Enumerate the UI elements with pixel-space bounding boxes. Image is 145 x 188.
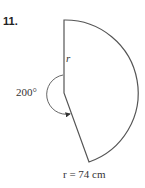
radius-label: r <box>66 52 70 64</box>
diagram: 11. r 200° r = 74 cm <box>0 0 145 188</box>
radius-caption: r = 74 cm <box>63 168 106 180</box>
angle-label: 200° <box>16 86 37 98</box>
sector-outline <box>64 20 138 162</box>
